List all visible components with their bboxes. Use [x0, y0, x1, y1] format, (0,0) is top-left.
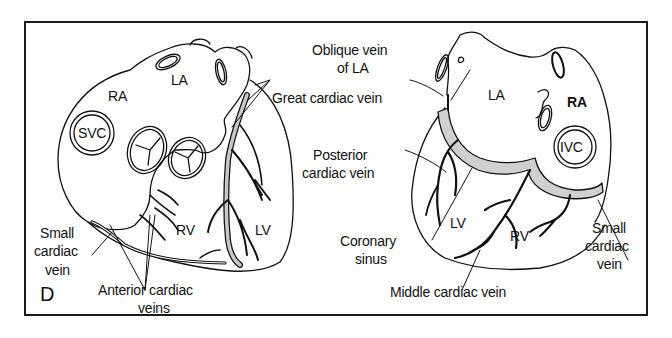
- label-right-la: LA: [488, 87, 505, 103]
- label-left-small-cardiac-vein-1: Small: [40, 225, 74, 241]
- label-oblique-vein-2: of LA: [337, 60, 369, 76]
- label-posterior-cardiac-vein-1: Posterior: [313, 147, 367, 163]
- label-left-la: LA: [171, 72, 188, 88]
- label-anterior-cardiac-veins-1: Anterior cardiac: [98, 282, 193, 298]
- label-right-small-cardiac-vein-3: vein: [597, 256, 622, 272]
- heart-valves: [121, 121, 212, 185]
- left-heart-ventricles-outline: [88, 80, 293, 271]
- label-posterior-cardiac-vein-2: cardiac vein: [302, 165, 374, 181]
- label-oblique-vein-1: Oblique vein: [312, 42, 387, 58]
- label-anterior-cardiac-veins-2: veins: [138, 300, 170, 316]
- middle-cardiac-vein: [455, 170, 530, 258]
- label-left-lv: LV: [255, 222, 271, 238]
- cardiac-veins-diagram: RA LA SVC RV LV Great cardiac vein Small…: [0, 0, 672, 338]
- label-middle-cardiac-vein: Middle cardiac vein: [390, 284, 506, 300]
- label-right-ra: RA: [567, 94, 587, 110]
- label-coronary-sinus-1: Coronary: [340, 233, 396, 249]
- label-right-rv: RV: [510, 228, 529, 244]
- label-right-small-cardiac-vein-2: cardiac: [585, 238, 629, 254]
- panel-letter: D: [40, 283, 54, 305]
- right-heart-ventricles-outline: [412, 108, 605, 270]
- label-ivc: IVC: [560, 139, 583, 155]
- label-left-rv: RV: [176, 222, 195, 238]
- label-left-small-cardiac-vein-2: cardiac: [34, 243, 78, 259]
- label-right-small-cardiac-vein-1: Small: [592, 220, 626, 236]
- label-svc: SVC: [78, 125, 106, 141]
- label-left-ra: RA: [108, 88, 127, 104]
- label-right-lv: LV: [450, 215, 466, 231]
- label-left-small-cardiac-vein-3: vein: [45, 262, 70, 278]
- label-coronary-sinus-2: sinus: [355, 251, 387, 267]
- label-great-cardiac-vein: Great cardiac vein: [272, 90, 382, 106]
